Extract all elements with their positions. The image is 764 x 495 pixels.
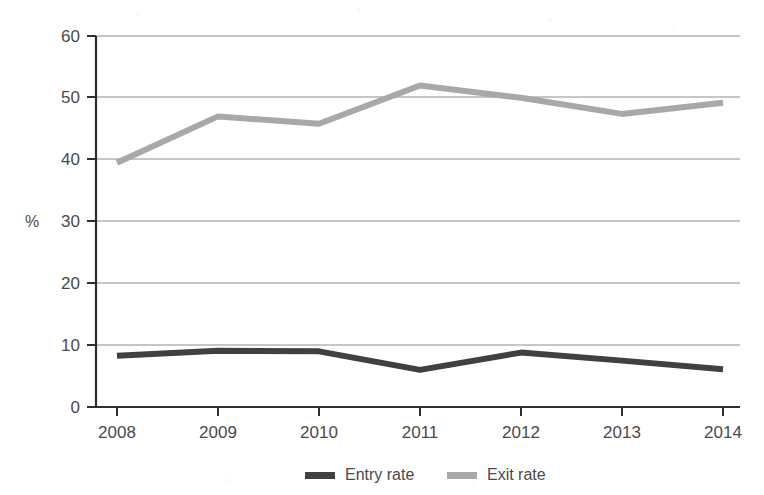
y-tick-label-30: 30 xyxy=(61,212,80,231)
y-tick-label-50: 50 xyxy=(61,88,80,107)
y-axis-title: % xyxy=(25,213,39,230)
x-tick-label-2008: 2008 xyxy=(98,423,136,442)
y-tick-label-60: 60 xyxy=(61,27,80,46)
x-tick-label-2011: 2011 xyxy=(402,423,439,442)
y-axis-ticks xyxy=(87,36,96,407)
chart-legend: Entry rate Exit rate xyxy=(305,466,546,483)
series-line-entry-rate xyxy=(117,351,723,370)
x-tick-label-2012: 2012 xyxy=(502,423,540,442)
x-tick-label-2010: 2010 xyxy=(300,423,338,442)
x-tick-label-2009: 2009 xyxy=(199,423,237,442)
y-tick-label-10: 10 xyxy=(61,336,80,355)
line-chart-figure: 60 50 40 30 20 10 0 % 2008 2009 2010 201… xyxy=(0,0,764,495)
legend-swatch-exit-rate xyxy=(447,472,477,479)
legend-label-entry-rate: Entry rate xyxy=(345,466,414,483)
x-tick-label-2013: 2013 xyxy=(603,423,641,442)
x-axis-ticks xyxy=(117,407,723,416)
legend-swatch-entry-rate xyxy=(305,472,335,479)
y-tick-label-20: 20 xyxy=(61,274,80,293)
x-tick-label-2014: 2014 xyxy=(704,423,742,442)
y-tick-label-0: 0 xyxy=(71,398,80,417)
y-tick-label-40: 40 xyxy=(61,150,80,169)
chart-canvas: 60 50 40 30 20 10 0 % 2008 2009 2010 201… xyxy=(0,0,764,495)
legend-label-exit-rate: Exit rate xyxy=(487,466,546,483)
gridlines xyxy=(96,36,740,345)
